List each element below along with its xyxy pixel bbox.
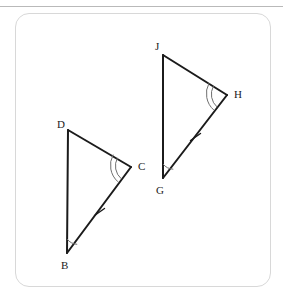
vertex-label-j: J [155,40,160,52]
vertex-label-c: C [138,160,145,172]
vertex-label-b: B [61,259,68,271]
segment-dc [68,130,131,167]
vertex-label-g: G [156,184,164,196]
vertex-label-h: H [234,88,242,100]
segment-jh [163,55,227,95]
triangle-bcd: D B C [57,118,145,271]
geometry-figure-page: D B C J G H [0,0,283,303]
triangle-ghj: J G H [155,40,242,196]
vertex-label-d: D [57,118,65,130]
segment-db [67,130,68,253]
triangles-diagram: D B C J G H [0,0,283,303]
segment-bc [67,167,131,253]
